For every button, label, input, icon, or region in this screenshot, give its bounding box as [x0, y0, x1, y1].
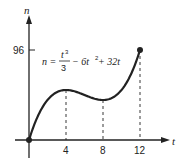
x-tick-label-4: 4	[63, 145, 69, 156]
svg-text:t: t	[61, 49, 64, 60]
svg-text:n =: n =	[42, 56, 56, 67]
equation-label: n = t 3 3 − 6t 2 + 32t	[42, 49, 120, 73]
x-axis-arrow-icon	[161, 137, 170, 143]
y-tick-label-96: 96	[13, 45, 25, 56]
y-axis-arrow-icon	[26, 15, 32, 24]
svg-text:− 6t: − 6t	[72, 56, 89, 67]
origin-point	[26, 137, 32, 143]
chart-canvas: n t 96 4 8 12 n = t 3 3 − 6t 2 + 32t	[0, 0, 177, 162]
x-tick-label-8: 8	[100, 145, 106, 156]
end-point-t12	[137, 47, 143, 53]
svg-text:+ 32t: + 32t	[98, 56, 120, 67]
svg-text:3: 3	[65, 49, 69, 55]
x-tick-label-12: 12	[134, 145, 146, 156]
svg-text:3: 3	[61, 63, 66, 73]
y-axis-label: n	[24, 4, 30, 16]
x-axis-label: t	[172, 135, 176, 147]
